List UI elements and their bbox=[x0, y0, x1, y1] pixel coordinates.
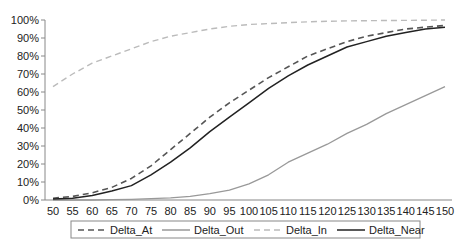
series-line-delta-in bbox=[53, 20, 445, 87]
y-tick-label: 90% bbox=[17, 32, 39, 44]
x-tick-label: 50 bbox=[47, 205, 59, 217]
y-axis: 0%10%20%30%40%50%60%70%80%90%100% bbox=[11, 14, 45, 206]
legend: Delta_AtDelta_OutDelta_InDelta_Near bbox=[71, 221, 425, 238]
x-tick-label: 135 bbox=[377, 205, 395, 217]
x-tick-label: 75 bbox=[145, 205, 157, 217]
x-axis: 5055606570758085909510010511011512012513… bbox=[45, 200, 454, 217]
x-tick-label: 100 bbox=[240, 205, 258, 217]
x-tick-label: 120 bbox=[318, 205, 336, 217]
x-tick-label: 130 bbox=[357, 205, 375, 217]
y-tick-label: 30% bbox=[17, 140, 39, 152]
y-tick-label: 60% bbox=[17, 86, 39, 98]
series-line-delta-at bbox=[53, 25, 445, 198]
x-tick-label: 55 bbox=[66, 205, 78, 217]
y-tick-label: 10% bbox=[17, 176, 39, 188]
x-tick-label: 140 bbox=[397, 205, 415, 217]
legend-label: Delta_At bbox=[110, 224, 152, 236]
plot-series bbox=[53, 20, 445, 200]
x-tick-label: 125 bbox=[338, 205, 356, 217]
x-tick-label: 110 bbox=[279, 205, 297, 217]
legend-label: Delta_Near bbox=[369, 224, 425, 236]
y-tick-label: 0% bbox=[23, 194, 39, 206]
y-tick-label: 100% bbox=[11, 14, 39, 26]
x-tick-label: 150 bbox=[436, 205, 454, 217]
legend-label: Delta_In bbox=[286, 224, 327, 236]
x-tick-label: 80 bbox=[164, 205, 176, 217]
y-tick-label: 40% bbox=[17, 122, 39, 134]
legend-label: Delta_Out bbox=[194, 224, 244, 236]
x-tick-label: 105 bbox=[259, 205, 277, 217]
x-tick-label: 145 bbox=[416, 205, 434, 217]
y-tick-label: 80% bbox=[17, 50, 39, 62]
x-tick-label: 90 bbox=[204, 205, 216, 217]
line-chart: 0%10%20%30%40%50%60%70%80%90%100% 505560… bbox=[0, 0, 463, 248]
y-tick-label: 20% bbox=[17, 158, 39, 170]
y-tick-label: 70% bbox=[17, 68, 39, 80]
x-tick-label: 60 bbox=[86, 205, 98, 217]
y-tick-label: 50% bbox=[17, 104, 39, 116]
x-tick-label: 95 bbox=[223, 205, 235, 217]
x-tick-label: 115 bbox=[299, 205, 317, 217]
x-tick-label: 70 bbox=[125, 205, 137, 217]
x-tick-label: 85 bbox=[184, 205, 196, 217]
x-tick-label: 65 bbox=[106, 205, 118, 217]
chart-canvas: 0%10%20%30%40%50%60%70%80%90%100% 505560… bbox=[0, 0, 463, 248]
